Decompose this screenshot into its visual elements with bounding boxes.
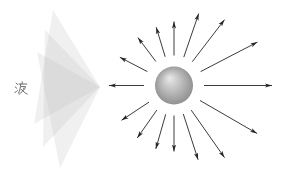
- scatter-arrow: [156, 27, 165, 57]
- wave-label-stroke: [16, 83, 18, 84]
- wave-label-stroke: [15, 87, 17, 88]
- scatter-arrow: [137, 110, 157, 138]
- wave-fan: [34, 10, 100, 168]
- scatter-arrow: [138, 38, 156, 62]
- wave-label: [15, 82, 27, 95]
- sphere: [155, 67, 193, 105]
- scatter-arrow: [122, 102, 150, 120]
- scatter-arrow: [191, 110, 224, 158]
- sphere-texture: [155, 67, 193, 105]
- scatter-arrow: [156, 114, 166, 149]
- wave-label-stroke: [19, 84, 21, 93]
- scatter-arrow: [120, 57, 147, 71]
- diagram-canvas: [0, 0, 285, 176]
- scatter-arrow: [192, 20, 224, 62]
- scatter-arrow: [200, 101, 257, 134]
- scatter-arrow: [201, 42, 258, 72]
- scattering-diagram: 波: [0, 0, 285, 176]
- scatter-arrow: [184, 14, 199, 58]
- wave-label-stroke: [15, 91, 18, 93]
- scatter-arrow: [183, 114, 198, 160]
